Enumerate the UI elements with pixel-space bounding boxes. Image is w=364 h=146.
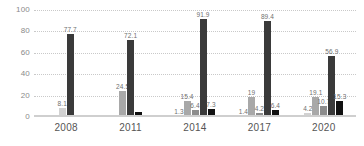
bar-slot: 6.4 xyxy=(192,10,199,117)
bar-group-2014: 1.315.46.491.97.3 xyxy=(163,10,227,117)
bar-slot: 6.4 xyxy=(272,10,279,117)
bar[interactable]: 77.7 xyxy=(67,34,74,117)
bar-slot: 7.3 xyxy=(208,10,215,117)
bar-value-label: 6.4 xyxy=(190,102,199,109)
y-axis: 020406080100 xyxy=(0,10,30,117)
bar-slot: 1.3 xyxy=(176,10,183,117)
bar-value-label: 1.3 xyxy=(174,108,183,115)
bar-value-label: 6.4 xyxy=(271,102,280,109)
x-axis-label-2014: 2014 xyxy=(163,121,227,139)
y-axis-tick-20: 20 xyxy=(0,92,30,100)
bar-slot: 4.2 xyxy=(256,10,263,117)
bar[interactable]: 72.1 xyxy=(127,40,134,117)
bar-slot: 15.4 xyxy=(184,10,191,117)
bar-value-label: 4.2 xyxy=(303,105,312,112)
bar-slot xyxy=(135,10,142,117)
bar-slot: 77.7 xyxy=(67,10,74,117)
bar[interactable]: 56.9 xyxy=(328,56,335,117)
x-axis-label-2017: 2017 xyxy=(227,121,291,139)
bar-value-label: 19 xyxy=(248,89,255,96)
bar-slot: 19 xyxy=(248,10,255,117)
x-axis-labels: 20082011201420172020 xyxy=(34,121,356,139)
y-axis-tick-60: 60 xyxy=(0,49,30,57)
bar-slot: 72.1 xyxy=(127,10,134,117)
axis-baseline xyxy=(34,115,356,117)
bar-slot: 4.2 xyxy=(304,10,311,117)
bar-slot: 89.4 xyxy=(264,10,271,117)
bar-value-label: 15.3 xyxy=(333,93,346,100)
bar-value-label: 77.7 xyxy=(64,26,77,33)
bar-slot: 56.9 xyxy=(328,10,335,117)
bar[interactable]: 24.5 xyxy=(119,91,126,117)
bar-group-2008: 8.177.7 xyxy=(34,10,98,117)
y-axis-tick-40: 40 xyxy=(0,70,30,78)
bar-group-2011: 24.572.1 xyxy=(98,10,162,117)
bar-value-label: 4.2 xyxy=(255,105,264,112)
bar-value-label: 7.3 xyxy=(206,101,215,108)
y-axis-tick-0: 0 xyxy=(0,113,30,121)
x-axis-label-2008: 2008 xyxy=(34,121,98,139)
x-axis-label-2011: 2011 xyxy=(98,121,162,139)
bar-slot: 10.7 xyxy=(320,10,327,117)
bar-chart: 020406080100 8.177.724.572.11.315.46.491… xyxy=(0,0,364,146)
bar-groups: 8.177.724.572.11.315.46.491.97.31.4194.2… xyxy=(34,10,356,117)
bar-value-label: 8.1 xyxy=(58,100,67,107)
bar-slot: 1.4 xyxy=(240,10,247,117)
bar-group-2017: 1.4194.289.46.4 xyxy=(227,10,291,117)
bar-value-label: 1.4 xyxy=(239,108,248,115)
bar-slot: 15.3 xyxy=(336,10,343,117)
bar-slot: 24.5 xyxy=(119,10,126,117)
bar-group-2020: 4.219.110.756.915.3 xyxy=(292,10,356,117)
x-axis-label-2020: 2020 xyxy=(292,121,356,139)
plot-area: 8.177.724.572.11.315.46.491.97.31.4194.2… xyxy=(34,10,356,117)
y-axis-tick-80: 80 xyxy=(0,27,30,35)
y-axis-tick-100: 100 xyxy=(0,6,30,14)
